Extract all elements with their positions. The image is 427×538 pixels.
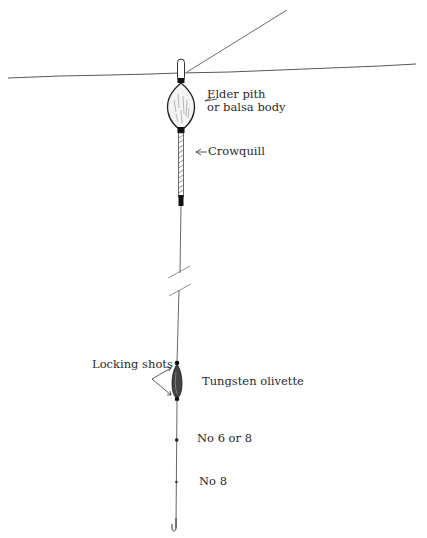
shot-no8 [175,481,178,484]
body-band [178,127,185,133]
float-body [168,83,195,130]
main-line-lower [177,290,179,362]
float-rig-diagram [0,0,427,538]
locking-shots-label: Locking shots [92,358,173,371]
body-label-line2: or balsa body [207,101,286,114]
olivette-label: Tungsten olivette [202,375,304,388]
main-line-upper [180,206,181,273]
hook-length [176,400,177,528]
break-mark-lower [169,284,191,296]
float-tip [178,59,185,81]
locking-shots-arrows [152,367,171,395]
rod-line [187,10,287,72]
shot-no6-or-8 [175,438,179,442]
crowquill-label: Crowquill [208,145,265,158]
break-mark-upper [168,266,190,278]
crowquill-pointer-arrow [196,149,207,155]
shot-lower-label: No 8 [199,475,227,488]
hook [172,518,176,531]
shot-upper-label: No 6 or 8 [197,432,252,445]
water-surface-line [8,64,416,78]
stem-base-band [179,195,184,206]
